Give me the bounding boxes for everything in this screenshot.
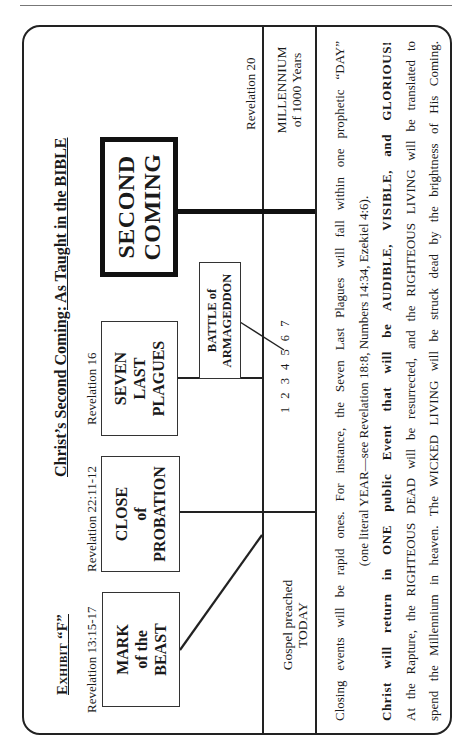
- millennium-label: MILLENNIUM of 1000 Years: [274, 35, 304, 145]
- event-box-close-of-probation: CLOSE of PROBATION: [101, 456, 180, 572]
- event-box-second-coming: SECOND COMING: [100, 137, 178, 277]
- event-box-seven-last-plagues: SEVEN LAST PLAGUES: [101, 321, 178, 436]
- note-line: Closing events will be rapid ones. For i…: [328, 41, 352, 721]
- rotated-exhibit: Exhibit “F” Christ’s Second Coming: As T…: [22, 25, 452, 735]
- note-line: (one literal YEAR—see Revelation 18:8, N…: [352, 41, 376, 721]
- event-box-battle-of-armageddon: BATTLE of ARMAGEDDON: [199, 262, 241, 379]
- notes-paragraph: Closing events will be rapid ones. For i…: [328, 41, 446, 721]
- ref-millennium: Revelation 20: [243, 57, 259, 130]
- page-header-rule: [20, 5, 452, 6]
- gospel-preached-today: Gospel preached TODAY: [280, 570, 310, 680]
- note-line: spend the Millennium in heaven. The WICK…: [422, 41, 446, 721]
- plague-numbers: 1 2 3 4 5 6 7: [278, 318, 293, 413]
- note-line: Christ will return in ONE public Event t…: [375, 41, 399, 721]
- note-line: At the Rapture, the RIGHTEOUS DEAD will …: [399, 41, 423, 721]
- event-box-mark-of-the-beast: MARK of the BEAST: [102, 592, 180, 707]
